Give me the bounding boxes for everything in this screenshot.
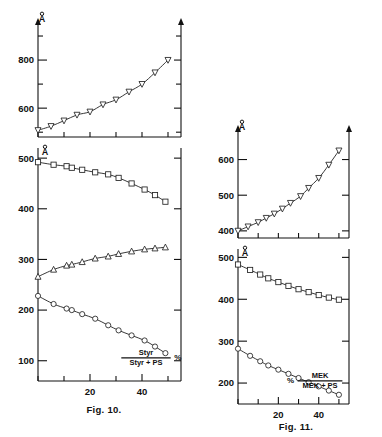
right-axis-arrow-icon bbox=[346, 125, 352, 132]
circle-data-point-marker bbox=[80, 312, 85, 317]
data-curve-triangle-curve bbox=[238, 151, 339, 231]
square-data-point-marker bbox=[163, 199, 168, 204]
data-point-group-triangle-curve bbox=[35, 244, 168, 279]
square-data-point-marker bbox=[316, 292, 321, 297]
square-data-point-marker bbox=[129, 181, 134, 186]
x-tick-label: 20 bbox=[85, 386, 96, 397]
circle-data-point-marker bbox=[276, 367, 281, 372]
figure-10-canvas: 600800A1002003004005002040AStyrStyr + PS… bbox=[0, 0, 200, 437]
y-tick-label: 400 bbox=[18, 203, 34, 214]
square-data-point-marker bbox=[248, 267, 253, 272]
y-tick-label: 500 bbox=[218, 190, 234, 201]
fig10-x-axis-label: StyrStyr + PS% bbox=[121, 348, 181, 367]
figure-11-canvas: 400500600A2003004005002040AMEKMEK + PS%F… bbox=[196, 0, 382, 437]
triangle-down-data-point-marker bbox=[139, 82, 145, 88]
y-tick-label: 600 bbox=[18, 103, 34, 114]
circle-data-point-marker bbox=[296, 375, 301, 380]
y-tick-label: 300 bbox=[218, 336, 234, 347]
square-data-point-marker bbox=[51, 162, 56, 167]
square-data-point-marker bbox=[235, 262, 240, 267]
square-data-point-marker bbox=[93, 170, 98, 175]
fraction-numerator: MEK bbox=[312, 371, 329, 380]
y-tick-label: 100 bbox=[18, 355, 34, 366]
circle-data-point-marker bbox=[235, 346, 240, 351]
circle-data-point-marker bbox=[258, 359, 263, 364]
triangle-down-data-point-marker bbox=[126, 89, 132, 95]
fig11-bottom-panel: 2003004005002040 bbox=[218, 249, 349, 420]
circle-data-point-marker bbox=[69, 307, 74, 312]
square-data-point-marker bbox=[286, 283, 291, 288]
square-data-point-marker bbox=[64, 164, 69, 169]
percent-symbol: % bbox=[287, 376, 294, 385]
square-data-point-marker bbox=[142, 187, 147, 192]
fig11-bottom-y-unit-label: A bbox=[242, 246, 249, 258]
data-point-group-triangle-curve bbox=[235, 148, 342, 234]
square-data-point-marker bbox=[306, 290, 311, 295]
fig10-top-y-unit-label: A bbox=[39, 12, 46, 24]
figure-11: 400500600A2003004005002040AMEKMEK + PS%F… bbox=[196, 0, 382, 437]
circle-data-point-marker bbox=[35, 293, 40, 298]
y-tick-label: 400 bbox=[218, 294, 234, 305]
y-tick-label: 500 bbox=[18, 153, 34, 164]
y-tick-label: 400 bbox=[218, 225, 234, 236]
data-curve-upper-curve bbox=[38, 60, 168, 130]
fig10-top-panel: 600800 bbox=[18, 18, 184, 137]
square-data-point-marker bbox=[106, 172, 111, 177]
square-data-point-marker bbox=[266, 276, 271, 281]
triangle-up-data-point-marker bbox=[35, 273, 41, 279]
triangle-down-data-point-marker bbox=[113, 97, 119, 103]
fig11-top-y-unit-label: A bbox=[239, 120, 246, 132]
triangle-down-data-point-marker bbox=[271, 211, 277, 217]
square-data-point-marker bbox=[80, 167, 85, 172]
triangle-down-data-point-marker bbox=[263, 215, 269, 221]
y-tick-label: 800 bbox=[18, 54, 34, 65]
data-point-group-square-curve bbox=[35, 160, 168, 205]
triangle-down-data-point-marker bbox=[61, 118, 67, 124]
data-curve-square-curve bbox=[38, 162, 165, 202]
circle-data-point-marker bbox=[93, 316, 98, 321]
square-data-point-marker bbox=[116, 175, 121, 180]
square-data-point-marker bbox=[296, 287, 301, 292]
circle-data-point-marker bbox=[163, 351, 168, 356]
y-tick-label: 200 bbox=[218, 377, 234, 388]
fraction-denominator: Styr + PS bbox=[129, 358, 162, 367]
square-data-point-marker bbox=[276, 279, 281, 284]
y-tick-label: 600 bbox=[218, 154, 234, 165]
triangle-up-data-point-marker bbox=[162, 244, 168, 250]
circle-data-point-marker bbox=[142, 338, 147, 343]
triangle-down-data-point-marker bbox=[287, 200, 293, 206]
right-axis-arrow-icon bbox=[178, 18, 184, 25]
x-tick-label: 40 bbox=[313, 409, 324, 420]
circle-data-point-marker bbox=[106, 323, 111, 328]
square-data-point-marker bbox=[69, 165, 74, 170]
data-curve-circle-curve bbox=[38, 296, 165, 353]
triangle-down-data-point-marker bbox=[245, 224, 251, 230]
square-data-point-marker bbox=[336, 297, 341, 302]
data-curve-square-curve bbox=[238, 265, 339, 300]
triangle-down-data-point-marker bbox=[298, 194, 304, 200]
square-data-point-marker bbox=[258, 272, 263, 277]
percent-symbol: % bbox=[174, 353, 181, 362]
figure-11-caption: Fig. 11. bbox=[279, 421, 314, 432]
circle-data-point-marker bbox=[266, 363, 271, 368]
circle-data-point-marker bbox=[51, 301, 56, 306]
circle-data-point-marker bbox=[248, 353, 253, 358]
data-point-group-square-curve bbox=[235, 262, 341, 302]
square-data-point-marker bbox=[326, 295, 331, 300]
figure-10-caption: Fig. 10. bbox=[86, 404, 121, 415]
y-tick-label: 300 bbox=[18, 254, 34, 265]
data-point-group-upper-curve bbox=[35, 57, 171, 133]
triangle-down-data-point-marker bbox=[255, 220, 261, 226]
y-tick-label: 500 bbox=[218, 252, 234, 263]
x-tick-label: 40 bbox=[137, 386, 148, 397]
triangle-down-data-point-marker bbox=[279, 206, 285, 212]
x-tick-label: 20 bbox=[273, 409, 284, 420]
triangle-down-data-point-marker bbox=[100, 102, 106, 108]
circle-data-point-marker bbox=[336, 392, 341, 397]
fraction-numerator: Styr bbox=[139, 348, 154, 357]
data-point-group-circle-curve bbox=[35, 293, 168, 355]
triangle-down-data-point-marker bbox=[74, 112, 80, 118]
fig11-x-axis-label: MEKMEK + PS% bbox=[287, 371, 342, 390]
circle-data-point-marker bbox=[116, 328, 121, 333]
y-tick-label: 200 bbox=[18, 304, 34, 315]
